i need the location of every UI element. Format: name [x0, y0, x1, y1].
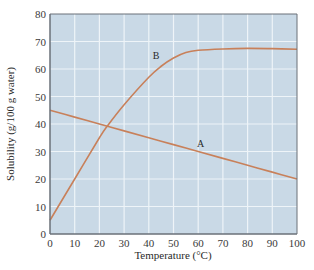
x-tick-label: 10	[69, 237, 81, 249]
y-tick-label: 80	[35, 8, 47, 20]
x-tick-label: 80	[242, 237, 254, 249]
curve-label-a: A	[197, 138, 205, 149]
curve-label-b: B	[153, 50, 160, 61]
x-tick-label: 50	[168, 237, 180, 249]
x-tick-label: 70	[217, 237, 229, 249]
y-tick-label: 30	[35, 146, 47, 158]
y-tick-label: 40	[35, 118, 47, 130]
x-tick-label: 20	[94, 237, 106, 249]
y-tick-label: 0	[41, 228, 47, 240]
x-tick-label: 60	[193, 237, 205, 249]
y-axis-label: Solubility (g/100 g water)	[4, 67, 17, 181]
x-tick-label: 30	[119, 237, 131, 249]
y-tick-label: 50	[35, 91, 47, 103]
y-tick-label: 70	[35, 36, 47, 48]
solubility-chart: AB 0102030405060708090100 01020304050607…	[0, 0, 314, 270]
y-tick-labels: 01020304050607080	[35, 8, 47, 240]
x-tick-label: 40	[143, 237, 155, 249]
x-tick-label: 0	[47, 237, 53, 249]
x-tick-label: 90	[267, 237, 279, 249]
y-tick-label: 60	[35, 63, 47, 75]
y-tick-label: 10	[35, 201, 47, 213]
x-tick-labels: 0102030405060708090100	[47, 237, 306, 249]
y-tick-label: 20	[35, 173, 47, 185]
x-tick-label: 100	[289, 237, 306, 249]
x-axis-label: Temperature (°C)	[134, 249, 212, 262]
